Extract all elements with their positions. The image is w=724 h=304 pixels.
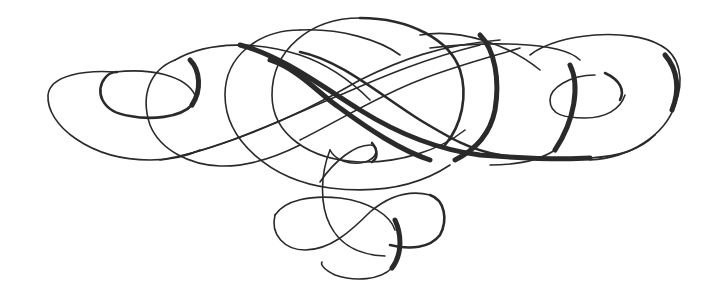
center-left-ellipse — [225, 30, 450, 190]
flourish-canvas: Decorative calligraphic flourish ornamen… — [0, 0, 724, 304]
calligraphic-flourish — [0, 0, 724, 304]
right-spiral — [530, 35, 680, 160]
bottom-pendant — [274, 143, 444, 279]
left-spiral — [48, 60, 200, 160]
